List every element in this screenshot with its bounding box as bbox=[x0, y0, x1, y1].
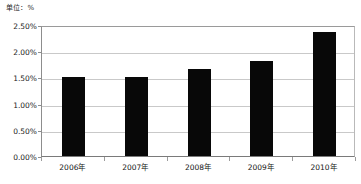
x-axis-category-label: 2008年 bbox=[167, 161, 230, 172]
bar bbox=[62, 77, 85, 156]
gridline bbox=[42, 53, 354, 54]
x-axis-category-label: 2009年 bbox=[229, 161, 292, 172]
plot-area bbox=[41, 26, 355, 157]
y-axis-tick-label: 2.50% bbox=[0, 22, 37, 31]
y-axis-tick-label: 2.00% bbox=[0, 48, 37, 57]
bar bbox=[125, 77, 148, 156]
bar bbox=[313, 32, 336, 156]
y-axis-tick-label: 0.50% bbox=[0, 126, 37, 135]
x-axis-category-label: 2006年 bbox=[41, 161, 104, 172]
x-axis-category-label: 2010年 bbox=[292, 161, 355, 172]
x-axis-category-label: 2007年 bbox=[104, 161, 167, 172]
bar-chart: 单位：% 0.00%0.50%1.00%1.50%2.00%2.50% 2006… bbox=[0, 0, 361, 184]
unit-label: 单位：% bbox=[6, 2, 34, 12]
bar bbox=[250, 61, 273, 156]
x-axis-tick-mark bbox=[355, 157, 356, 161]
y-axis-tick-label: 1.50% bbox=[0, 74, 37, 83]
y-axis-tick-label: 1.00% bbox=[0, 100, 37, 109]
y-axis-tick-label: 0.00% bbox=[0, 153, 37, 162]
bar bbox=[188, 69, 211, 156]
